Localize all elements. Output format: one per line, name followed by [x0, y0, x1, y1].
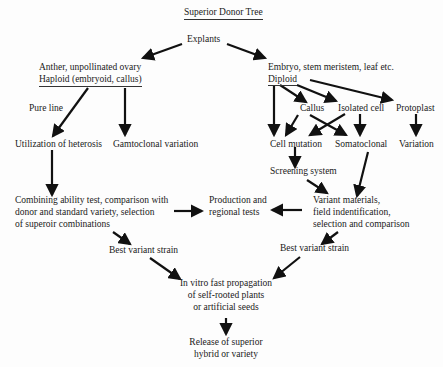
- combining-line1: Combining ability test, comparison with: [15, 194, 168, 206]
- node-production-tests: Production and regional tests: [209, 194, 267, 218]
- variant-line1: Variant materials,: [313, 194, 410, 206]
- haploid-source-line1: Anther, unpollinated ovary: [39, 61, 142, 73]
- release-line2: hybrid or variety: [180, 348, 272, 360]
- diagram-canvas: Superior Donor Tree Explants Anther, unp…: [0, 0, 443, 367]
- variant-line2: field indentification,: [313, 206, 410, 218]
- node-isolated-cell: Isolated cell: [338, 102, 384, 114]
- node-variant-materials: Variant materials, field indentification…: [313, 194, 410, 230]
- node-utilization-heterosis: Utilization of heterosis: [15, 138, 102, 150]
- diagram-title: Superior Donor Tree: [184, 6, 263, 20]
- node-combining-ability: Combining ability test, comparison with …: [15, 194, 168, 230]
- node-protoplast: Protoplast: [396, 102, 435, 114]
- combining-line2: donor and standard variety, selection: [15, 206, 168, 218]
- node-somatoclonal: Somatoclonal: [335, 138, 387, 150]
- node-diploid-source: Embryo, stem meristem, leaf etc. Diploid: [268, 61, 394, 86]
- in-vitro-line1: In vitro fast propagation: [175, 277, 277, 289]
- node-release: Release of superior hybrid or variety: [180, 336, 272, 360]
- in-vitro-line2: of self-rooted plants: [175, 289, 277, 301]
- diploid-source-line2: Diploid: [268, 73, 297, 86]
- node-best-variant-left: Best variant strain: [109, 244, 178, 256]
- node-screening-system: Screening system: [270, 165, 337, 177]
- node-cell-mutation: Cell mutation: [270, 138, 322, 150]
- node-variation: Variation: [399, 138, 434, 150]
- production-line1: Production and: [209, 194, 267, 206]
- node-in-vitro-propagation: In vitro fast propagation of self-rooted…: [175, 277, 277, 313]
- haploid-source-line2: Haploid (embryoid, callus): [39, 73, 142, 87]
- diploid-source-line1: Embryo, stem meristem, leaf etc.: [268, 61, 394, 73]
- release-line1: Release of superior: [180, 336, 272, 348]
- node-gamtoclonal-variation: Gamtoclonal variation: [113, 138, 198, 150]
- node-best-variant-right: Best variant strain: [280, 242, 349, 254]
- node-pure-line: Pure line: [29, 102, 63, 114]
- in-vitro-line3: or artificial seeds: [175, 301, 277, 313]
- combining-line3: of superoir combinations: [15, 218, 168, 230]
- node-callus: Callus: [300, 102, 324, 114]
- node-explants: Explants: [187, 33, 220, 45]
- node-haploid-source: Anther, unpollinated ovary Haploid (embr…: [39, 61, 142, 87]
- variant-line3: selection and comparison: [313, 218, 410, 230]
- production-line2: regional tests: [209, 206, 267, 218]
